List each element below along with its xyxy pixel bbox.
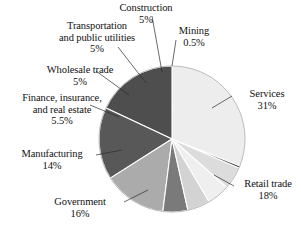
label-mining: Mining 0.5% bbox=[162, 25, 226, 48]
label-manufacturing: Manufacturing 14% bbox=[8, 148, 96, 171]
label-wholesale-trade-value: 5% bbox=[20, 76, 140, 88]
label-retail-trade-value: 18% bbox=[236, 190, 300, 202]
label-finance-value: 5.5% bbox=[0, 115, 124, 127]
label-wholesale-trade-name: Wholesale trade bbox=[47, 64, 113, 75]
pie-chart: Construction 5% Mining 0.5% Transportati… bbox=[0, 0, 301, 231]
label-government: Government 16% bbox=[38, 196, 122, 219]
label-transportation: Transportation and public utilities 5% bbox=[28, 20, 166, 55]
label-transportation-line2: and public utilities bbox=[28, 32, 166, 44]
label-services-name: Services bbox=[250, 88, 285, 99]
label-retail-trade: Retail trade 18% bbox=[236, 178, 300, 201]
label-construction-name: Construction bbox=[119, 2, 172, 13]
label-mining-value: 0.5% bbox=[162, 37, 226, 49]
label-services: Services 31% bbox=[236, 88, 298, 111]
label-retail-trade-name: Retail trade bbox=[244, 178, 292, 189]
label-manufacturing-name: Manufacturing bbox=[21, 148, 82, 159]
label-transportation-value: 5% bbox=[28, 43, 166, 55]
label-mining-name: Mining bbox=[179, 25, 209, 36]
label-transportation-line1: Transportation bbox=[67, 20, 127, 31]
label-finance-line1: Finance, insurance, bbox=[22, 92, 101, 103]
label-government-name: Government bbox=[54, 196, 106, 207]
label-government-value: 16% bbox=[38, 208, 122, 220]
label-services-value: 31% bbox=[236, 100, 298, 112]
label-finance-insurance-real-estate: Finance, insurance, and real estate 5.5% bbox=[0, 92, 124, 127]
label-wholesale-trade: Wholesale trade 5% bbox=[20, 64, 140, 87]
label-manufacturing-value: 14% bbox=[8, 160, 96, 172]
pie-slices bbox=[99, 66, 245, 212]
label-finance-line2: and real estate bbox=[0, 104, 124, 116]
